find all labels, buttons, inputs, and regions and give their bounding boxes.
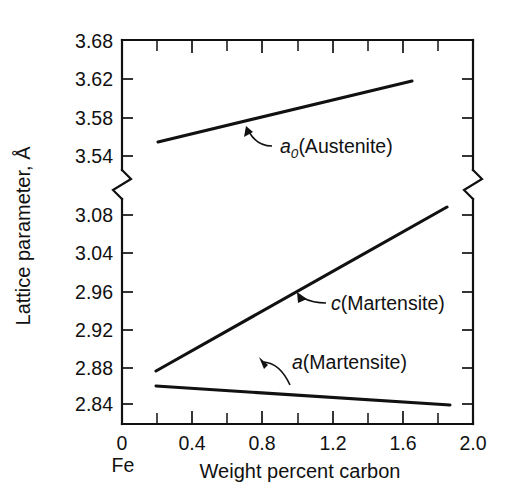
x-tick-label-0: 0 [117, 432, 128, 454]
y-tick-label-2: 3.58 [75, 107, 113, 129]
y-tick-label-7: 2.92 [75, 319, 113, 341]
x-tick-label-1: 0.4 [178, 432, 205, 454]
x-tick-label-4: 1.6 [389, 432, 416, 454]
annotation-symbol-austenite: a [280, 135, 291, 157]
annotation-symbol-martensite-a: a [292, 351, 303, 373]
x-axis-title: Weight percent carbon [200, 460, 401, 482]
x-tick-label-2: 0.8 [248, 432, 275, 454]
y-axis-title: Lattice parameter, Å [12, 146, 34, 326]
annotation-label-martensite-c: c(Martensite) [331, 292, 445, 314]
annotation-phase-martensite-c: (Martensite) [341, 292, 445, 314]
origin-element-note: Fe [112, 454, 135, 476]
x-axis-tick-labels: 0 0.4 0.8 1.2 1.6 2.0 [117, 432, 487, 454]
lattice-parameter-chart: 3.68 3.62 3.58 3.54 3.08 3.04 2.96 2.92 … [0, 0, 528, 498]
y-axis-tick-labels: 3.68 3.62 3.58 3.54 3.08 3.04 2.96 2.92 … [75, 30, 113, 415]
y-axis-break-right [464, 170, 482, 199]
annotation-arrowhead-martensite-c [297, 292, 307, 303]
annotation-label-martensite-a: a(Martensite) [292, 351, 407, 373]
y-tick-label-6: 2.96 [75, 281, 113, 303]
y-tick-label-3: 3.54 [75, 145, 113, 167]
x-tick-label-5: 2.0 [459, 432, 486, 454]
x-tick-label-3: 1.2 [319, 432, 346, 454]
annotation-phase-martensite-a: (Martensite) [303, 351, 407, 373]
annotation-martensite-c: c(Martensite) [297, 292, 445, 314]
series-line-austenite-a0 [158, 81, 412, 142]
y-tick-label-1: 3.62 [75, 68, 113, 90]
x-axis-ticks-top [157, 40, 438, 53]
annotation-label-austenite: a0(Austenite) [280, 135, 393, 161]
y-tick-label-8: 2.88 [75, 357, 113, 379]
series-line-martensite-a [156, 386, 450, 405]
annotation-martensite-a: a(Martensite) [259, 351, 407, 385]
y-axis-ticks-left [122, 79, 133, 404]
annotation-phase-austenite: (Austenite) [298, 135, 392, 157]
annotation-symbol-martensite-c: c [331, 292, 341, 314]
y-tick-label-5: 3.04 [75, 242, 113, 264]
series-line-martensite-c [156, 207, 447, 371]
y-tick-label-0: 3.68 [75, 30, 113, 52]
y-axis-break-left [113, 170, 131, 199]
annotation-leader-austenite [249, 132, 272, 146]
annotation-austenite-a0: a0(Austenite) [244, 126, 393, 161]
x-axis-ticks-bottom [157, 411, 438, 424]
y-axis-ticks-right [462, 79, 473, 404]
y-tick-label-9: 2.84 [75, 393, 113, 415]
y-tick-label-4: 3.08 [75, 204, 113, 226]
annotation-leader-martensite-a [264, 362, 290, 385]
chart-canvas: 3.68 3.62 3.58 3.54 3.08 3.04 2.96 2.92 … [0, 0, 528, 498]
